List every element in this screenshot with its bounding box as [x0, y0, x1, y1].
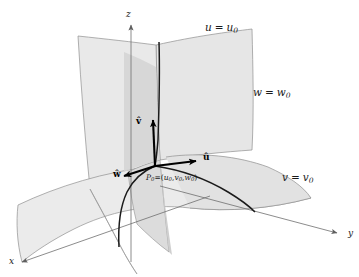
unit-vector-label-v: v̂: [135, 116, 142, 126]
surface-label-u: u=u0: [205, 21, 238, 35]
svg-text:u=u0: u=u0: [205, 21, 238, 35]
axis-label-y: y: [347, 228, 354, 238]
unit-vector-label-u: û: [203, 152, 210, 162]
surface-label-w-val: w: [277, 86, 286, 98]
surface-label-w-eq: =: [265, 86, 274, 98]
surface-label-u-var: u: [205, 21, 212, 33]
surface-label-v-var: v: [282, 171, 288, 183]
axis-label-z: z: [125, 9, 131, 19]
surface-label-w: w=w0: [253, 86, 291, 100]
surface-w-constant: [156, 29, 253, 160]
figure-canvas: x y z u=u0 w=w0 v=v0 P0=(u0,v0,w0) û v̂ …: [0, 0, 359, 277]
surface-label-w-var: w: [253, 86, 262, 98]
unit-vector-label-w: ŵ: [112, 169, 121, 179]
coordinate-surface-diagram: x y z u=u0 w=w0 v=v0 P0=(u0,v0,w0) û v̂ …: [0, 0, 359, 277]
surface-label-v-sub: 0: [309, 176, 314, 185]
axis-label-x: x: [9, 256, 14, 266]
surface-label-u-eq: =: [215, 21, 224, 33]
surface-label-v-eq: =: [291, 171, 300, 183]
surface-label-u-sub: 0: [233, 26, 238, 35]
point-label-close: ): [194, 173, 197, 182]
point-P0-marker: [154, 165, 156, 167]
surface-label-w-sub: 0: [286, 91, 291, 100]
svg-text:w=w0: w=w0: [253, 86, 291, 100]
